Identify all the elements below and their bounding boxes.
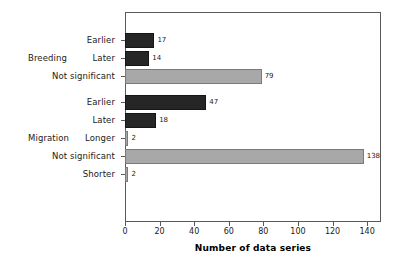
bar-value-label: 14 [152,55,161,62]
x-axis-title: Number of data series [125,243,381,253]
category-label-breeding-earlier: Earlier [87,35,122,45]
bar-migration-earlier [125,95,206,110]
category-label-migration-longer: Longer [85,133,122,143]
category-label-migration-shorter: Shorter [83,169,122,179]
bar-migration-not-significant [125,149,364,164]
x-tick-mark [333,222,334,226]
x-tick-label: 100 [290,227,305,236]
bar-value-label: 2 [131,135,135,142]
x-tick-label: 20 [155,227,165,236]
bar-breeding-later [125,51,149,66]
x-tick-mark [367,222,368,226]
x-tick-label: 140 [360,227,375,236]
bar-value-label: 2 [131,171,135,178]
bar-breeding-earlier [125,33,154,48]
bar-value-label: 79 [265,73,274,80]
x-tick-mark [263,222,264,226]
bar-value-label: 47 [209,99,218,106]
bar-value-label: 17 [157,37,166,44]
x-tick-label: 0 [122,227,127,236]
bar-value-label: 18 [159,117,168,124]
bar-chart: Breeding Migration Earlier Later Not sig… [0,0,393,264]
x-tick-mark [194,222,195,226]
x-tick-mark [229,222,230,226]
x-tick-mark [160,222,161,226]
category-label-breeding-later: Later [92,53,122,63]
bar-migration-shorter [125,167,128,182]
bar-value-label: 138 [367,153,380,160]
category-label-column: Earlier Later Not significant Earlier La… [0,0,122,264]
bar-breeding-not-significant [125,69,262,84]
category-label-migration-earlier: Earlier [87,97,122,107]
category-label-breeding-not-significant: Not significant [52,71,122,81]
category-label-migration-not-significant: Not significant [52,151,122,161]
x-tick-label: 40 [189,227,199,236]
x-tick-mark [125,222,126,226]
x-tick-mark [298,222,299,226]
x-tick-label: 60 [224,227,234,236]
category-label-migration-later: Later [92,115,122,125]
x-tick-label: 120 [325,227,340,236]
bar-migration-longer [125,131,128,146]
x-tick-label: 80 [258,227,268,236]
bar-migration-later [125,113,156,128]
